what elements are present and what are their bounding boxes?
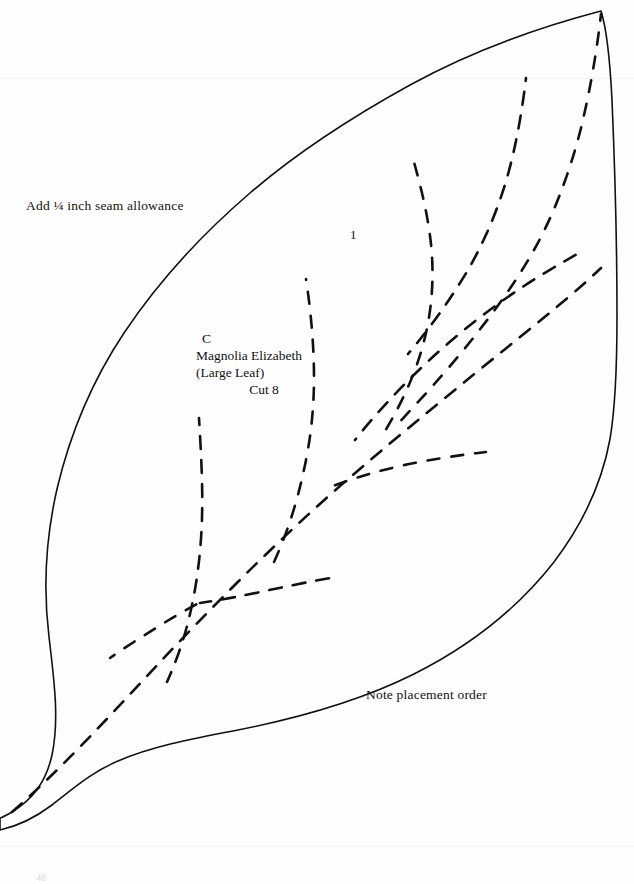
leaf-vein-vein-left-long <box>167 418 202 682</box>
placement-order-note: Note placement order <box>366 687 487 703</box>
piece-letter: C <box>196 330 346 347</box>
leaf-pattern-drawing <box>0 0 634 884</box>
pattern-page: Add ¼ inch seam allowance 1 C Magnolia E… <box>0 0 634 884</box>
piece-cut-instruction: Cut 8 <box>196 381 346 398</box>
leaf-vein-vein-right-branch-2 <box>333 452 486 486</box>
page-number: 48 <box>36 872 46 883</box>
leaf-veins-group <box>12 14 601 812</box>
seam-allowance-note: Add ¼ inch seam allowance <box>26 198 184 214</box>
leaf-vein-vein-left-mid <box>274 279 314 562</box>
leaf-outline <box>0 11 617 830</box>
piece-label-block: C Magnolia Elizabeth (Large Leaf) Cut 8 <box>196 330 346 398</box>
leaf-outline-group <box>0 11 617 830</box>
placement-order-number: 1 <box>350 227 357 243</box>
piece-name: Magnolia Elizabeth <box>196 347 346 364</box>
piece-descriptor: (Large Leaf) <box>196 364 346 381</box>
